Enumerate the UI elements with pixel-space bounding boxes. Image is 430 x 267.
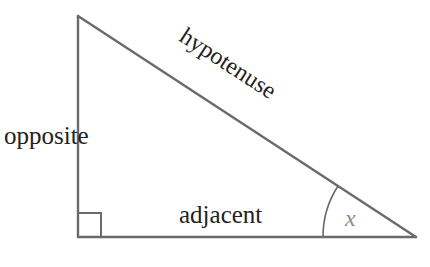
right-triangle-diagram: hypotenuse opposite adjacent x (0, 0, 430, 267)
adjacent-label: adjacent (179, 201, 262, 228)
angle-x-label: x (344, 205, 356, 231)
right-angle-marker (78, 213, 101, 237)
angle-arc (323, 186, 338, 237)
opposite-label: opposite (4, 122, 89, 149)
hypotenuse-label: hypotenuse (175, 22, 281, 103)
triangle-figure: hypotenuse opposite adjacent x (0, 0, 430, 267)
